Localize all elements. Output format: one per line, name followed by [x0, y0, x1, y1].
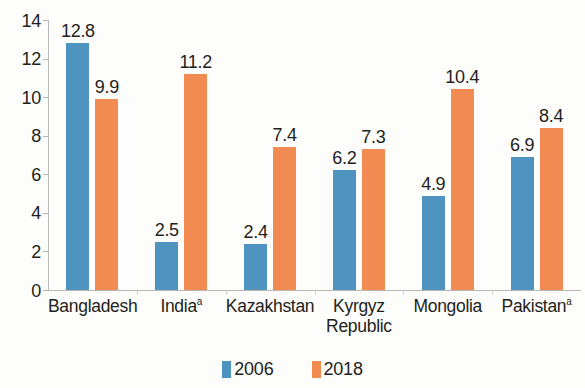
x-axis-label-mongolia: Mongolia	[403, 296, 492, 316]
bar-value-label: 2.5	[155, 221, 179, 239]
x-axis-label-text: Kazakhstan	[226, 296, 314, 316]
x-axis-label-kyrgyz-republic: KyrgyzRepublic	[315, 296, 404, 336]
y-axis-tick: 2	[48, 251, 49, 252]
legend-item-2006: 2006	[222, 360, 273, 378]
y-axis-tick: 4	[48, 213, 49, 214]
y-axis-tick-label: 4	[31, 204, 41, 222]
y-axis-tick: 8	[48, 136, 49, 137]
bar-value-label: 12.8	[61, 22, 95, 40]
bar-india-2018: 11.2	[184, 74, 207, 290]
x-axis-tick-mark	[403, 290, 404, 295]
y-axis-tick-mark	[43, 59, 48, 60]
bar-kazakhstan-2006: 2.4	[244, 244, 267, 290]
y-axis-tick-label: 14	[21, 12, 41, 30]
bar-value-label: 11.2	[180, 53, 213, 71]
bar-value-label: 7.3	[361, 128, 385, 146]
y-axis-tick-mark	[43, 97, 48, 98]
x-axis-tick-mark	[137, 290, 138, 295]
y-axis-tick-mark	[43, 213, 48, 214]
y-axis-tick: 0	[48, 290, 49, 291]
y-axis-tick-label: 2	[31, 243, 41, 261]
plot-area: 14121086420 12.89.92.511.22.47.46.27.34.…	[48, 20, 581, 290]
bar-kazakhstan-2018: 7.4	[273, 147, 296, 290]
bar-value-label: 4.9	[421, 175, 445, 193]
y-axis-tick: 12	[48, 59, 49, 60]
bar-value-label: 8.4	[539, 107, 563, 125]
y-axis-tick-label: 12	[21, 50, 41, 68]
x-axis-label-footnote-marker: a	[566, 296, 571, 307]
y-axis-tick: 14	[48, 20, 49, 21]
y-axis-tick-label: 8	[31, 127, 41, 145]
y-axis-tick-label: 10	[21, 89, 41, 107]
bar-kyrgyz-republic-2006: 6.2	[333, 170, 356, 290]
bar-pakistan-2018: 8.4	[540, 128, 563, 290]
legend-label-2018: 2018	[324, 360, 363, 378]
x-axis-tick-mark	[226, 290, 227, 295]
x-axis-label-bangladesh: Bangladesh	[48, 296, 137, 316]
x-axis-label-pakistan: Pakistana	[492, 296, 581, 316]
x-axis-tick-mark	[315, 290, 316, 295]
bar-bangladesh-2006: 12.8	[66, 43, 89, 290]
chart-legend: 20062018	[0, 360, 585, 378]
y-axis-tick: 6	[48, 174, 49, 175]
x-axis-label-text: Pakistan	[502, 296, 567, 316]
x-axis-label-india: Indiaa	[137, 296, 226, 316]
bar-bangladesh-2018: 9.9	[95, 99, 118, 290]
bar-chart: 14121086420 12.89.92.511.22.47.46.27.34.…	[0, 0, 585, 388]
bar-pakistan-2006: 6.9	[511, 157, 534, 290]
bar-value-label: 7.4	[273, 126, 297, 144]
bar-value-label: 9.9	[95, 78, 119, 96]
y-axis-line	[48, 20, 49, 291]
x-axis-label-footnote-marker: a	[197, 296, 202, 307]
x-axis-label-text: India	[160, 296, 196, 316]
y-axis-tick-mark	[43, 174, 48, 175]
y-axis-tick: 10	[48, 97, 49, 98]
x-axis-tick-mark	[492, 290, 493, 295]
bar-value-label: 6.9	[510, 136, 534, 154]
y-axis-tick-label: 0	[31, 282, 41, 300]
y-axis-tick-mark	[43, 136, 48, 137]
x-axis-label-text: Kyrgyz	[333, 296, 385, 316]
x-axis-label-kazakhstan: Kazakhstan	[226, 296, 315, 316]
x-axis-label-text-line2: Republic	[315, 316, 404, 336]
y-axis-tick-mark	[43, 290, 48, 291]
bar-kyrgyz-republic-2018: 7.3	[362, 149, 385, 290]
legend-label-2006: 2006	[234, 360, 273, 378]
legend-swatch-2006	[222, 361, 231, 378]
legend-swatch-2018	[312, 361, 321, 378]
bar-value-label: 6.2	[332, 149, 356, 167]
bar-india-2006: 2.5	[155, 242, 178, 290]
y-axis-tick-label: 6	[31, 166, 41, 184]
y-axis-tick-mark	[43, 20, 48, 21]
bar-value-label: 10.4	[445, 68, 479, 86]
bar-value-label: 2.4	[244, 223, 268, 241]
x-axis-label-text: Mongolia	[413, 296, 482, 316]
bar-mongolia-2018: 10.4	[451, 89, 474, 290]
legend-item-2018: 2018	[312, 360, 363, 378]
y-axis-tick-mark	[43, 251, 48, 252]
bar-mongolia-2006: 4.9	[422, 196, 445, 291]
x-axis-label-text: Bangladesh	[48, 296, 137, 316]
